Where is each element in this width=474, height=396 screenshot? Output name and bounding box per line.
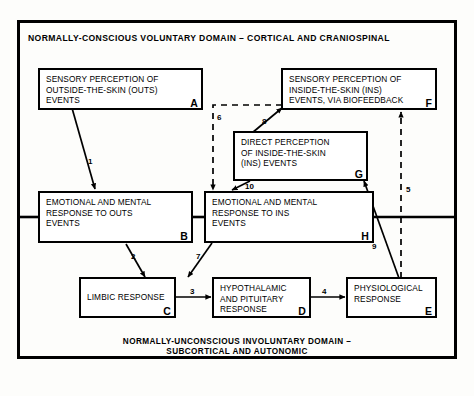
edge-label-6: 6	[217, 114, 221, 122]
node-b-text: EMOTIONAL AND MENTAL RESPONSE TO OUTS EV…	[46, 197, 186, 229]
node-c-key: C	[163, 306, 171, 317]
node-h-text: EMOTIONAL AND MENTAL RESPONSE TO INS EVE…	[212, 197, 367, 229]
node-h-key: H	[361, 231, 369, 242]
node-g: DIRECT PERCEPTION OF INSIDE-THE-SKIN (IN…	[233, 131, 368, 181]
node-a: SENSORY PERCEPTION OF OUTSIDE-THE-SKIN (…	[38, 68, 203, 110]
node-e: PHYSIOLOGICAL RESPONSE E	[346, 277, 437, 318]
edge-1-line	[72, 108, 95, 189]
node-f-text: SENSORY PERCEPTION OF INSIDE-THE-SKIN (I…	[289, 74, 430, 106]
node-c: LIMBIC RESPONSE C	[79, 277, 176, 318]
node-d-text: HYPOTHALAMIC AND PITUITARY RESPONSE	[220, 283, 304, 315]
node-f-key: F	[425, 98, 432, 109]
node-a-text: SENSORY PERCEPTION OF OUTSIDE-THE-SKIN (…	[46, 74, 196, 106]
edge-8-line	[252, 108, 282, 133]
edge-2-line	[126, 244, 145, 277]
edge-label-9: 9	[372, 243, 376, 251]
edge-label-1: 1	[88, 158, 92, 166]
node-c-text: LIMBIC RESPONSE	[87, 292, 165, 303]
node-b-key: B	[180, 231, 188, 242]
top-domain-label: NORMALLY-CONSCIOUS VOLUNTARY DOMAIN – CO…	[28, 33, 446, 44]
node-b: EMOTIONAL AND MENTAL RESPONSE TO OUTS EV…	[38, 191, 193, 243]
edge-label-10: 10	[245, 183, 254, 191]
node-g-key: G	[355, 169, 363, 180]
node-f: SENSORY PERCEPTION OF INSIDE-THE-SKIN (I…	[281, 68, 437, 110]
node-d-key: D	[298, 306, 306, 317]
edge-label-4: 4	[322, 288, 326, 296]
node-h: EMOTIONAL AND MENTAL RESPONSE TO INS EVE…	[204, 191, 374, 243]
node-e-key: E	[425, 306, 432, 317]
node-e-text: PHYSIOLOGICAL RESPONSE	[354, 283, 430, 304]
diagram-canvas: NORMALLY-CONSCIOUS VOLUNTARY DOMAIN – CO…	[0, 0, 474, 396]
node-a-key: A	[190, 98, 198, 109]
node-d: HYPOTHALAMIC AND PITUITARY RESPONSE D	[212, 277, 311, 318]
edge-label-2: 2	[131, 253, 135, 261]
node-g-text: DIRECT PERCEPTION OF INSIDE-THE-SKIN (IN…	[241, 137, 361, 169]
edge-label-8: 8	[262, 118, 266, 126]
bottom-domain-label: NORMALLY-UNCONSCIOUS INVOLUNTARY DOMAIN …	[40, 337, 434, 358]
edge-label-7: 7	[196, 253, 200, 261]
edge-label-3: 3	[190, 288, 194, 296]
edge-label-5: 5	[406, 186, 410, 194]
